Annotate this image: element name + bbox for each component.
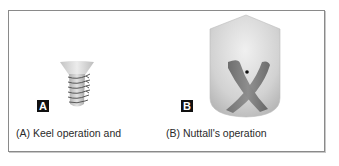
keel-funnel-icon bbox=[60, 61, 94, 107]
panel-a-badge: A bbox=[37, 100, 49, 112]
panel-b-badge: B bbox=[181, 100, 193, 112]
keel-operation-illustration bbox=[0, 0, 339, 166]
nuttall-operation-icon bbox=[210, 15, 280, 117]
panel-a-caption: (A) Keel operation and bbox=[16, 126, 121, 140]
panel-b-caption: (B) Nuttall's operation bbox=[166, 126, 267, 140]
